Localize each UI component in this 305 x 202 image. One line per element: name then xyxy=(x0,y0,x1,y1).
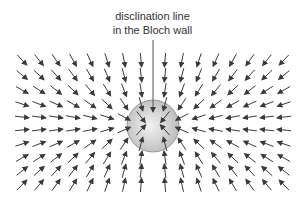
field-arrow xyxy=(86,153,95,164)
field-arrow xyxy=(180,152,185,165)
field-arrow xyxy=(122,164,126,177)
field-arrow xyxy=(212,165,219,177)
field-arrow xyxy=(50,101,63,107)
vector-field-figure xyxy=(0,0,305,202)
field-arrow xyxy=(17,180,27,190)
field-arrow xyxy=(102,139,112,149)
field-arrow xyxy=(15,116,29,118)
field-arrow xyxy=(122,68,126,82)
field-arrow xyxy=(164,83,166,97)
field-arrow xyxy=(244,101,257,107)
field-arrow xyxy=(86,85,95,96)
field-arrow xyxy=(246,54,254,66)
field-arrow xyxy=(164,53,165,67)
field-arrow xyxy=(100,128,113,132)
field-arrow xyxy=(277,102,290,106)
field-arrow xyxy=(243,129,257,131)
field-arrow xyxy=(35,180,44,191)
field-arrow xyxy=(245,154,256,163)
field-arrow xyxy=(52,54,60,66)
field-arrow xyxy=(279,180,289,190)
field-arrow xyxy=(180,68,184,82)
field-arrow xyxy=(229,179,236,191)
field-arrow xyxy=(196,165,202,178)
field-arrow xyxy=(213,69,220,81)
field-arrow xyxy=(51,154,62,163)
field-arrow xyxy=(277,129,291,130)
field-arrow xyxy=(195,152,202,164)
field-arrow xyxy=(260,116,274,118)
field-arrow xyxy=(67,101,79,108)
field-arrow xyxy=(50,141,63,147)
field-arrow xyxy=(33,154,45,162)
field-arrow xyxy=(84,140,95,148)
field-arrow xyxy=(34,70,44,80)
field-arrow xyxy=(15,142,28,146)
field-arrow xyxy=(245,166,255,176)
field-arrow xyxy=(178,138,186,150)
field-arrow xyxy=(66,116,80,119)
field-arrow xyxy=(49,129,63,131)
bloch-wall-diagram: disclination line in the Bloch wall xyxy=(0,0,305,202)
field-arrow xyxy=(16,155,28,162)
field-arrow xyxy=(213,179,219,192)
field-arrow xyxy=(87,54,93,67)
field-arrow xyxy=(66,129,80,131)
field-arrow xyxy=(120,98,128,110)
field-arrow xyxy=(180,164,184,177)
field-arrow xyxy=(86,165,93,177)
field-arrow xyxy=(226,116,240,119)
field-arrow xyxy=(195,84,202,96)
field-arrow xyxy=(243,116,257,118)
field-arrow xyxy=(230,54,237,66)
field-arrow xyxy=(262,166,272,175)
field-arrow xyxy=(192,115,205,119)
field-arrow xyxy=(100,115,113,119)
field-arrow xyxy=(34,166,44,175)
field-arrow xyxy=(209,129,223,132)
field-arrow xyxy=(17,71,28,80)
field-arrow xyxy=(263,55,272,66)
field-arrow xyxy=(226,129,240,131)
field-arrow xyxy=(245,70,254,80)
field-arrow xyxy=(103,152,110,164)
field-arrow xyxy=(69,69,77,80)
field-arrow xyxy=(245,86,256,95)
field-arrow xyxy=(33,102,46,107)
field-arrow xyxy=(194,99,204,109)
field-arrow xyxy=(244,141,257,147)
field-arrow xyxy=(84,100,95,108)
field-arrow xyxy=(164,151,166,165)
field-arrow xyxy=(122,84,127,97)
field-arrow xyxy=(17,55,27,65)
field-arrow xyxy=(181,178,184,192)
field-arrow xyxy=(229,69,237,80)
field-arrow xyxy=(69,179,76,191)
field-arrow xyxy=(51,86,62,95)
field-arrow xyxy=(68,153,78,163)
field-arrow xyxy=(32,116,46,118)
field-arrow xyxy=(261,154,273,162)
field-arrow xyxy=(197,53,201,66)
field-arrow xyxy=(210,100,221,108)
field-arrow xyxy=(178,98,186,110)
field-arrow xyxy=(227,141,239,148)
field-arrow xyxy=(140,68,142,82)
field-arrow xyxy=(70,54,77,66)
field-arrow xyxy=(49,116,63,118)
field-arrow xyxy=(67,141,79,148)
field-arrow xyxy=(104,69,109,82)
field-arrow xyxy=(277,142,290,146)
field-arrow xyxy=(123,178,126,192)
field-arrow xyxy=(212,153,221,164)
field-arrow xyxy=(83,129,97,132)
field-arrow xyxy=(192,128,205,132)
field-arrow xyxy=(87,179,93,192)
field-arrow xyxy=(261,142,274,147)
field-arrow xyxy=(279,55,289,65)
field-arrow xyxy=(140,53,141,67)
field-arrow xyxy=(164,178,165,192)
field-arrow xyxy=(35,55,44,66)
field-arrow xyxy=(51,70,60,80)
field-arrow xyxy=(120,138,128,150)
